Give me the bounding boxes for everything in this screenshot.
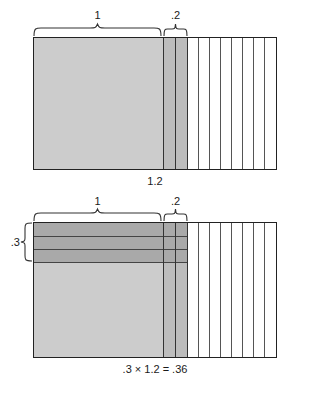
grid-line-v xyxy=(253,38,254,169)
brace-one-top-label: 1 xyxy=(33,9,162,21)
grid-line-v xyxy=(187,223,188,357)
figure-canvas: 1 .2 1.2 xyxy=(0,0,310,394)
grid-line-v xyxy=(264,38,265,169)
grid-line-v xyxy=(209,38,210,169)
grid-line-v xyxy=(242,223,243,357)
grid-line-v xyxy=(163,38,164,169)
grid-line-v xyxy=(163,223,164,357)
grid-line-v xyxy=(175,223,176,357)
brace-one-top xyxy=(33,24,162,36)
grid-line-v xyxy=(198,223,199,357)
grid-line-v xyxy=(253,223,254,357)
brace-two-tenths-top xyxy=(163,24,188,36)
brace-three-tenths-bottom xyxy=(21,222,33,262)
grid-line-v xyxy=(198,38,199,169)
grid-line-v xyxy=(187,38,188,169)
grid-rect-top xyxy=(33,37,277,170)
grid-line-h xyxy=(34,236,188,237)
grid-line-v xyxy=(220,38,221,169)
grid-rect-bottom xyxy=(33,222,277,358)
caption-top: 1.2 xyxy=(0,175,310,188)
brace-one-bottom xyxy=(33,209,162,221)
grid-line-v xyxy=(231,223,232,357)
grid-line-v xyxy=(231,38,232,169)
panel-top: 1 .2 1.2 xyxy=(0,0,310,196)
grid-line-h xyxy=(34,249,188,250)
brace-one-bottom-label: 1 xyxy=(33,195,162,207)
grid-line-v xyxy=(209,223,210,357)
grid-line-h xyxy=(34,262,188,263)
caption-bottom: .3 × 1.2 = .36 xyxy=(0,363,310,376)
grid-line-v xyxy=(220,223,221,357)
brace-two-tenths-bottom-label: .2 xyxy=(163,195,188,207)
product-region xyxy=(34,223,188,263)
grid-line-v xyxy=(242,38,243,169)
panel-bottom: 1 .2 .3 xyxy=(0,196,310,394)
brace-two-tenths-bottom xyxy=(163,209,188,221)
grid-line-v xyxy=(264,223,265,357)
brace-two-tenths-top-label: .2 xyxy=(163,9,188,21)
brace-three-tenths-bottom-label: .3 xyxy=(3,236,20,248)
grid-line-v xyxy=(175,38,176,169)
